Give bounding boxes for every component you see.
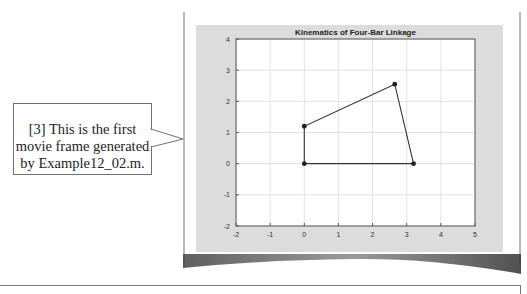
x-tick-label: 4 <box>439 231 443 238</box>
caption-box-border <box>0 285 521 294</box>
y-tick-label: -1 <box>224 191 230 198</box>
y-tick-label: 3 <box>226 67 230 74</box>
chart: -2-1012345-2-101234Kinematics of Four-Ba… <box>196 25 503 252</box>
x-tick-label: 0 <box>302 231 306 238</box>
callout-line-3: by Example12_02.m. <box>14 155 151 172</box>
figure-window: -2-1012345-2-101234Kinematics of Four-Ba… <box>196 25 503 252</box>
y-tick-label: 1 <box>226 129 230 136</box>
joint-marker <box>302 161 307 166</box>
x-tick-label: -1 <box>267 231 273 238</box>
joint-marker <box>392 82 397 87</box>
callout-pointer <box>150 128 190 152</box>
page-curl-shadow <box>183 254 521 274</box>
x-tick-label: -2 <box>233 231 239 238</box>
x-tick-label: 5 <box>473 231 477 238</box>
callout-line-1: [3] This is the first <box>14 121 151 138</box>
y-tick-label: -2 <box>224 223 230 230</box>
y-tick-label: 4 <box>226 36 230 43</box>
x-tick-label: 2 <box>371 231 375 238</box>
joint-marker <box>302 124 307 129</box>
chart-title: Kinematics of Four-Bar Linkage <box>295 28 416 37</box>
callout-annotation: [3] This is the first movie frame genera… <box>13 103 152 175</box>
y-tick-label: 2 <box>226 98 230 105</box>
y-tick-label: 0 <box>226 160 230 167</box>
x-tick-label: 1 <box>336 231 340 238</box>
x-tick-label: 3 <box>405 231 409 238</box>
joint-marker <box>411 161 416 166</box>
callout-line-2: movie frame generated <box>14 138 151 155</box>
